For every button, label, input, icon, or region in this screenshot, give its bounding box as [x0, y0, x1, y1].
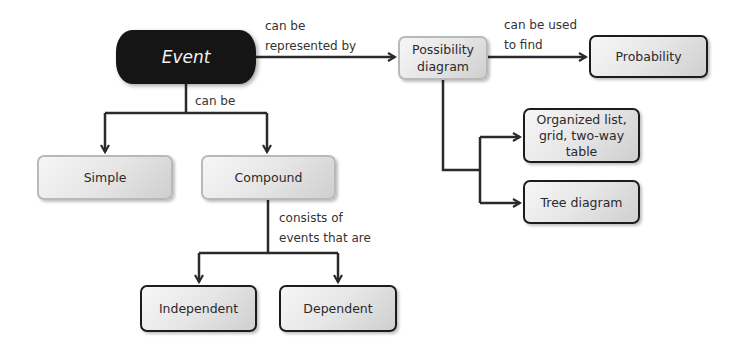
edge-label-consists-of: consists of: [279, 208, 343, 228]
node-simple: Simple: [37, 155, 173, 200]
concept-map: Event Possibility diagram Probability Or…: [0, 0, 747, 357]
node-event: Event: [116, 30, 256, 84]
edge-label-can-be-used: can be used: [504, 15, 577, 35]
node-independent: Independent: [140, 285, 257, 332]
node-compound: Compound: [201, 155, 336, 200]
node-tree-diagram: Tree diagram: [523, 180, 640, 224]
node-possibility-diagram: Possibility diagram: [398, 36, 488, 80]
edge-label-can-be: can be: [265, 16, 305, 36]
node-organized-list: Organized list, grid, two-way table: [523, 108, 640, 163]
edge-label-to-find: to find: [504, 35, 543, 55]
edge-label-represented-by: represented by: [265, 36, 356, 56]
node-probability: Probability: [589, 35, 708, 78]
node-dependent: Dependent: [279, 285, 397, 332]
edge-label-events-that-are: events that are: [279, 228, 371, 248]
edge-label-types-can-be: can be: [195, 91, 235, 111]
